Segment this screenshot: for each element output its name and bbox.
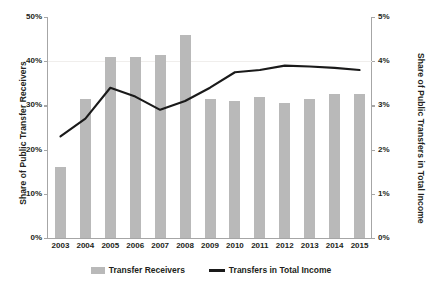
x-axis-label: 2013 <box>296 241 324 250</box>
x-axis-line <box>47 238 373 239</box>
left-tick-mark <box>44 105 47 106</box>
right-tick-label: 3% <box>378 100 404 109</box>
x-axis-label: 2003 <box>46 241 74 250</box>
x-axis-label: 2011 <box>246 241 274 250</box>
x-axis-label: 2014 <box>321 241 349 250</box>
right-tick-mark <box>372 150 375 151</box>
right-tick-label: 0% <box>378 233 404 242</box>
line-swatch-icon <box>209 269 225 272</box>
left-tick-label: 10% <box>16 189 42 198</box>
left-tick-mark <box>44 150 47 151</box>
left-tick-mark <box>44 17 47 18</box>
x-axis-label: 2009 <box>196 241 224 250</box>
legend-label-transfers-in-total-income: Transfers in Total Income <box>229 265 331 275</box>
legend-label-transfer-receivers: Transfer Receivers <box>109 265 185 275</box>
right-tick-mark <box>372 194 375 195</box>
left-tick-label: 40% <box>16 56 42 65</box>
left-tick-mark <box>44 238 47 239</box>
right-tick-label: 4% <box>378 56 404 65</box>
legend-item-transfer-receivers: Transfer Receivers <box>91 265 185 275</box>
x-axis-labels: 2003200420052006200720082009201020112012… <box>48 241 372 255</box>
x-axis-label: 2005 <box>96 241 124 250</box>
left-tick-label: 30% <box>16 100 42 109</box>
chart-legend: Transfer Receivers Transfers in Total In… <box>0 262 422 278</box>
x-axis-label: 2010 <box>221 241 249 250</box>
right-tick-label: 2% <box>378 145 404 154</box>
right-tick-mark <box>372 61 375 62</box>
left-tick-mark <box>44 61 47 62</box>
line-path <box>60 66 359 137</box>
right-tick-mark <box>372 238 375 239</box>
right-tick-mark <box>372 105 375 106</box>
right-axis-title: Share of Public Transfers in Total Incom… <box>416 53 426 213</box>
x-axis-label: 2008 <box>171 241 199 250</box>
left-tick-label: 50% <box>16 12 42 21</box>
right-tick-label: 5% <box>378 12 404 21</box>
right-tick-mark <box>372 17 375 18</box>
line-series-transfers-in-total-income <box>48 17 372 238</box>
x-axis-label: 2006 <box>121 241 149 250</box>
legend-item-transfers-in-total-income: Transfers in Total Income <box>209 265 331 275</box>
right-tick-label: 1% <box>378 189 404 198</box>
x-axis-label: 2015 <box>346 241 374 250</box>
bar-swatch-icon <box>91 267 105 274</box>
x-axis-label: 2007 <box>146 241 174 250</box>
x-axis-label: 2004 <box>71 241 99 250</box>
left-tick-label: 20% <box>16 145 42 154</box>
left-tick-mark <box>44 194 47 195</box>
left-tick-label: 0% <box>16 233 42 242</box>
x-axis-label: 2012 <box>271 241 299 250</box>
